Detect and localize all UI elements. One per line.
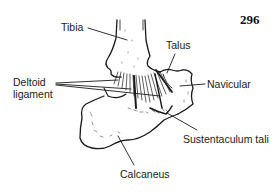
label-deltoid-line2: ligament [13, 88, 53, 100]
leader-deltoid-1 [56, 80, 118, 83]
leader-sustentaculum [167, 113, 197, 130]
label-sustentaculum-tali: Sustentaculum tali [183, 133, 269, 145]
page-number: 296 [240, 12, 260, 28]
label-tibia: Tibia [61, 21, 83, 33]
label-talus: Talus [166, 39, 191, 51]
label-deltoid-line1: Deltoid [13, 76, 46, 88]
ankle-diagram: 296 Tibia Talus Deltoid ligament Navicul… [0, 0, 280, 194]
label-calcaneus: Calcaneus [120, 168, 170, 180]
calcaneus-bone [80, 96, 178, 149]
label-navicular: Navicular [207, 78, 251, 90]
tibia-bone-right [145, 20, 160, 72]
tibia-bone [106, 20, 121, 77]
leader-tibia [88, 28, 127, 40]
